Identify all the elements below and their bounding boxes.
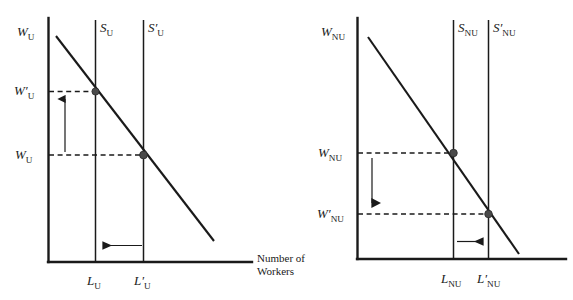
x-axis-caption-line1: Number of	[257, 252, 305, 264]
right-wage-label-initial: WNU	[318, 145, 342, 163]
left-wage-label-new: W′U	[14, 83, 35, 101]
right-equilibrium-point-initial	[450, 149, 458, 157]
left-wage-label-initial: WU	[15, 147, 33, 165]
left-demand-curve	[56, 36, 214, 241]
left-quantity-label-new: LU	[86, 273, 101, 291]
left-panel: WU SU S′U W′U WU LU L′U	[14, 18, 252, 291]
right-quantity-label-initial: LNU	[440, 271, 462, 289]
left-equilibrium-point-initial	[140, 151, 148, 159]
right-supply-label-initial: SNU	[458, 20, 478, 38]
diagram-canvas: WU SU S′U W′U WU LU L′U	[0, 0, 573, 300]
right-supply-label-shifted: S′NU	[493, 20, 516, 38]
left-equilibrium-point-new	[92, 88, 99, 95]
right-wage-label-new: W′NU	[317, 206, 344, 224]
right-quantity-label-new: L′NU	[476, 271, 501, 289]
right-demand-curve	[368, 37, 519, 254]
right-equilibrium-point-new	[485, 210, 493, 218]
left-supply-label-shifted: S′U	[148, 20, 164, 38]
right-y-axis-label: WNU	[321, 24, 345, 42]
left-quantity-label-initial: L′U	[133, 273, 151, 291]
labor-market-diagram: WU SU S′U W′U WU LU L′U	[0, 0, 573, 300]
x-axis-caption-line2: Workers	[257, 265, 294, 277]
left-y-axis-label: WU	[17, 24, 35, 42]
left-supply-label-initial: SU	[100, 20, 114, 38]
right-panel: WNU SNU S′NU WNU W′NU LNU L′NU	[317, 18, 566, 289]
